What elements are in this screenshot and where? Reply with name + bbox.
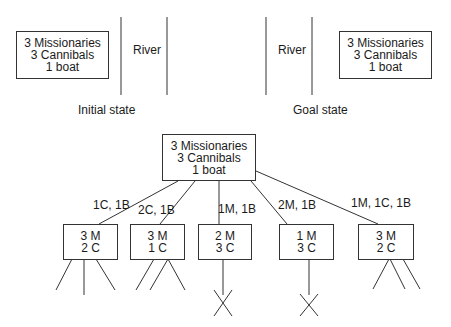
child-3-cannibals: 3 C (216, 242, 235, 254)
edge-label-2: 2C, 1B (138, 204, 175, 216)
child-node-2: 3 M 1 C (130, 224, 185, 260)
root-missionaries: 3 Missionaries (171, 140, 248, 152)
child-node-4: 1 M 3 C (279, 224, 334, 260)
edge-label-3: 1M, 1B (218, 203, 256, 215)
initial-state-box: 3 Missionaries 3 Cannibals 1 boat (16, 31, 109, 79)
child-2-cannibals: 1 C (148, 242, 167, 254)
child-1-cannibals: 2 C (81, 242, 100, 254)
initial-boat: 1 boat (46, 61, 79, 73)
child-node-1: 3 M 2 C (63, 224, 118, 260)
goal-river-label: River (278, 44, 306, 56)
edge-label-1: 1C, 1B (93, 199, 130, 211)
initial-river-label: River (133, 44, 161, 56)
child-node-5: 3 M 2 C (358, 224, 414, 260)
goal-state-box: 3 Missionaries 3 Cannibals 1 boat (339, 31, 432, 79)
initial-state-caption: Initial state (78, 104, 135, 116)
tree-root-node: 3 Missionaries 3 Cannibals 1 boat (162, 134, 256, 181)
child-node-3: 2 M 3 C (198, 224, 252, 260)
child-4-cannibals: 3 C (297, 242, 316, 254)
edge-label-5: 1M, 1C, 1B (351, 197, 411, 209)
root-cannibals: 3 Cannibals (177, 152, 240, 164)
goal-state-caption: Goal state (293, 104, 348, 116)
child-5-cannibals: 2 C (377, 242, 396, 254)
root-boat: 1 boat (192, 164, 225, 176)
edge-label-4: 2M, 1B (278, 199, 316, 211)
goal-boat: 1 boat (369, 61, 402, 73)
